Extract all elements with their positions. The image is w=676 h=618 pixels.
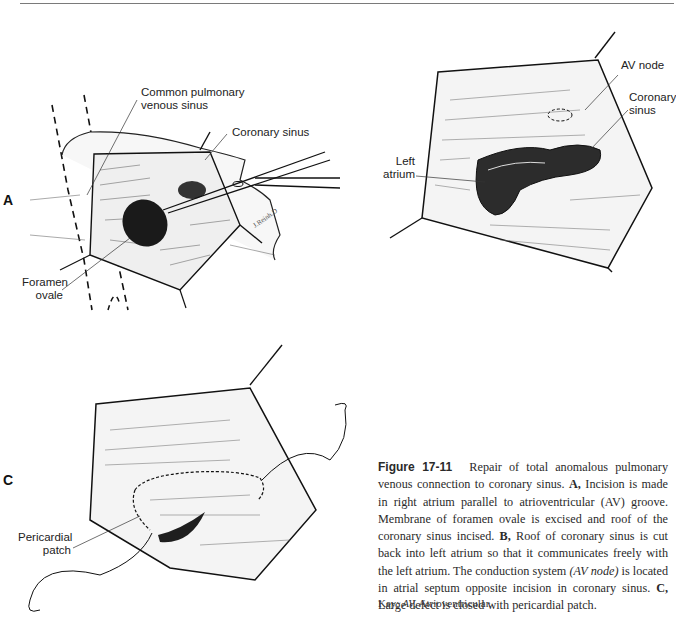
- panel-c-letter: C: [3, 472, 13, 488]
- panel-a-letter: A: [3, 192, 13, 208]
- label-left-atrium: Left atrium: [381, 155, 415, 181]
- figure-number: Figure 17-11: [378, 460, 452, 474]
- label-foramen-ovale: Foramen ovale: [22, 276, 63, 302]
- label-av-node: AV node: [621, 59, 664, 72]
- label-pericardial-patch: Pericardial patch: [18, 531, 71, 557]
- figure-caption: Figure 17-11 Repair of total anomalous p…: [378, 459, 668, 615]
- label-common-pulmonary-venous-sinus: Common pulmonary venous sinus: [141, 86, 245, 112]
- panel-a-illustration: J.Reinh.D A Common pulmonary venous sinu…: [0, 60, 340, 310]
- figure-key: Key: AV, Atrioventricular.: [378, 597, 492, 609]
- panel-b-drawing: [370, 10, 674, 270]
- panel-c-illustration: C Pericardial patch: [0, 320, 360, 618]
- label-coronary-sinus-a: Coronary sinus: [232, 126, 309, 139]
- panel-b-illustration: AV node Coronary sinus Left atrium: [370, 10, 674, 270]
- label-coronary-sinus-b: Coronary sinus: [629, 91, 676, 117]
- panel-c-drawing: [0, 320, 360, 618]
- page-top-rule: [20, 3, 674, 4]
